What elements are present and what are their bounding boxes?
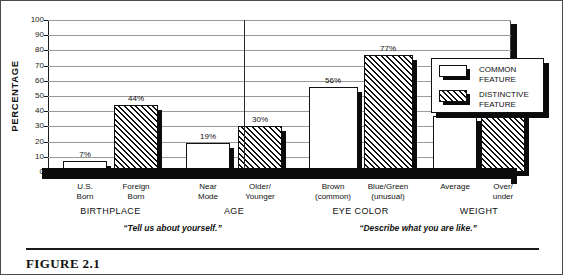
category-label: Brown (common) [302, 182, 364, 201]
y-axis-tick-mark [44, 50, 48, 51]
y-axis-tick-mark [44, 157, 48, 158]
legend-swatch [439, 65, 467, 77]
bar-shadow-right [157, 110, 162, 176]
bar-value-label: 19% [200, 133, 216, 141]
chart-base-plinth-left [42, 168, 49, 179]
y-axis-tick-mark [44, 142, 48, 143]
bar-eye-color-common: 56% [309, 87, 358, 172]
y-axis-tick-mark [44, 111, 48, 112]
bar-birthplace-distinctive: 44% [114, 105, 158, 172]
figure-frame: PERCENTAGE 1009080706050403020100 7%44%1… [0, 0, 563, 275]
y-axis-tick-label: 40 [35, 107, 44, 115]
y-axis-tick-label: 70 [35, 62, 44, 70]
legend-label: COMMON FEATURE [479, 65, 516, 84]
category-label: Foreign Born [105, 182, 167, 201]
figure-caption: FIGURE 2.1 [26, 257, 100, 271]
gridline [48, 20, 511, 21]
chart-base-plinth [42, 172, 517, 179]
legend-item-common: COMMON FEATURE [439, 65, 516, 84]
question-group-divider [244, 20, 245, 172]
y-axis-tick-mark [44, 96, 48, 97]
bar-eye-color-distinctive: 77% [364, 55, 413, 172]
chart-legend: COMMON FEATUREDISTINCTIVE FEATURE [431, 58, 544, 113]
y-axis-tick-label: 30 [35, 122, 44, 130]
y-axis-tick-label: 60 [35, 77, 44, 85]
legend-item-distinctive: DISTINCTIVE FEATURE [439, 90, 529, 109]
caption-rule [26, 248, 539, 250]
y-axis-tick-mark [44, 20, 48, 21]
category-label: Blue/Green (unusual) [357, 182, 419, 201]
question-annotation: “Describe what you are like.” [318, 223, 518, 233]
legend-label: DISTINCTIVE FEATURE [479, 90, 529, 109]
y-axis-tick-mark [44, 81, 48, 82]
bar-shadow-right [357, 92, 362, 176]
question-annotation: “Tell us about yourself.” [73, 223, 273, 233]
group-label-age: AGE [179, 206, 289, 216]
legend-swatch-shadow-bottom [443, 76, 470, 80]
bar-value-label: 56% [325, 77, 341, 85]
y-axis-title: PERCENTAGE [7, 20, 21, 172]
y-axis-tick-mark [44, 35, 48, 36]
y-axis-title-text: PERCENTAGE [9, 60, 20, 131]
gridline [48, 50, 511, 51]
category-label: Over/ under [472, 182, 534, 201]
bar-value-label: 7% [79, 151, 91, 159]
y-axis-tick-mark [44, 66, 48, 67]
y-axis-tick-label: 80 [35, 46, 44, 54]
group-label-weight: WEIGHT [424, 206, 534, 216]
bar-weight-common: 37% [433, 116, 477, 172]
bar-value-label: 44% [128, 95, 144, 103]
bar-shadow-right [412, 60, 417, 176]
legend-swatch-shadow-bottom [443, 101, 470, 105]
y-axis-tick-label: 50 [35, 92, 44, 100]
bar-value-label: 77% [380, 45, 396, 53]
category-label: Older/ Younger [229, 182, 291, 201]
legend-swatch [439, 90, 467, 102]
group-label-eye-color: EYE COLOR [306, 206, 416, 216]
group-label-birthplace: BIRTHPLACE [56, 206, 166, 216]
bar-value-label: 30% [252, 116, 268, 124]
gridline [48, 35, 511, 36]
y-axis-tick-mark [44, 126, 48, 127]
y-axis-tick-label: 90 [35, 31, 44, 39]
y-axis-tick-label: 20 [35, 138, 44, 146]
y-axis-tick-label: 10 [35, 153, 44, 161]
y-axis-tick-label: 100 [31, 16, 44, 24]
